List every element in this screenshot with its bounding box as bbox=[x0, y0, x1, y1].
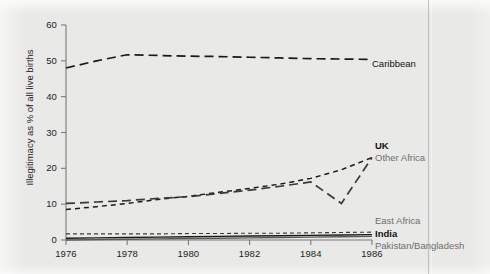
line-chart-plot bbox=[0, 0, 490, 274]
series-line-other-africa bbox=[66, 158, 372, 204]
x-tick-label: 1984 bbox=[291, 248, 331, 259]
y-tick-label: 40 bbox=[35, 91, 57, 102]
series-label-pakistan-bangladesh: Pakistan/Bangladesh bbox=[375, 240, 464, 251]
y-tick-label: 30 bbox=[35, 127, 57, 138]
series-label-caribbean: Caribbean bbox=[372, 58, 416, 69]
series-line-caribbean bbox=[66, 55, 372, 68]
series-line-east-africa bbox=[66, 232, 372, 234]
y-tick-label: 0 bbox=[35, 234, 57, 245]
series-label-east-africa: East Africa bbox=[375, 215, 420, 226]
y-tick-label: 10 bbox=[35, 198, 57, 209]
series-label-india: India bbox=[375, 228, 397, 239]
y-axis-title: Illegitimacy as % of all live births bbox=[24, 23, 35, 213]
y-tick-label: 20 bbox=[35, 162, 57, 173]
y-tick-label: 60 bbox=[35, 19, 57, 30]
x-tick-label: 1978 bbox=[107, 248, 147, 259]
x-tick-label: 1982 bbox=[230, 248, 270, 259]
series-label-uk: UK bbox=[375, 140, 389, 151]
x-tick-label: 1976 bbox=[46, 248, 86, 259]
x-tick-label: 1980 bbox=[168, 248, 208, 259]
y-axis-ticks bbox=[61, 25, 66, 240]
x-axis-ticks bbox=[66, 240, 372, 245]
y-tick-label: 50 bbox=[35, 55, 57, 66]
series-label-other-africa: Other Africa bbox=[375, 152, 425, 163]
chart-figure: 0102030405060 197619781980198219841986 I… bbox=[0, 0, 490, 274]
data-series-group bbox=[66, 55, 372, 240]
